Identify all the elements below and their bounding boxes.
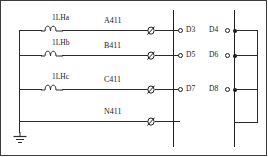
row-n-wire (19, 121, 151, 122)
row-b-return-wire (234, 55, 258, 56)
row-a-wire-left (19, 30, 42, 31)
row-a-wire-right (62, 30, 151, 31)
ground-symbol (11, 132, 29, 144)
row-c-return-wire (234, 89, 258, 90)
phi-terminal-a[interactable] (146, 26, 155, 35)
conductor-a-label: A411 (104, 17, 121, 25)
left-vertical-bus (19, 30, 20, 133)
row-c-wire-to-strip (155, 89, 180, 90)
coil-a-label: 1LHa (52, 14, 69, 22)
terminal-d6-circle[interactable] (225, 53, 230, 58)
row-a-wire-to-strip (155, 30, 180, 31)
conductor-n-label: N411 (104, 108, 121, 116)
terminal-d7-label: D7 (186, 85, 195, 93)
coil-b-label: 1LHb (52, 39, 70, 47)
row-b-wire-right (62, 55, 151, 56)
schematic-diagram: 1LHa A411 D3 D4 1LHb B411 D5 D6 (0, 0, 268, 157)
row-c-wire-right (62, 89, 151, 90)
row-b-wire-to-strip (155, 55, 180, 56)
terminal-strip-left-bus (173, 10, 174, 147)
terminal-d6-label: D6 (209, 51, 218, 59)
terminal-d4-circle[interactable] (225, 28, 230, 33)
return-bottom-wire (234, 122, 258, 123)
row-b-wire-left (19, 55, 42, 56)
terminal-d5-circle[interactable] (178, 53, 183, 58)
row-n-wire-to-strip (155, 121, 180, 122)
terminal-strip-right-bus (234, 10, 235, 147)
terminal-d7-circle[interactable] (178, 87, 183, 92)
phi-terminal-b[interactable] (146, 51, 155, 60)
conductor-c-label: C411 (104, 76, 121, 84)
terminal-d5-label: D5 (186, 51, 195, 59)
terminal-d8-label: D8 (209, 85, 218, 93)
phi-terminal-c[interactable] (146, 85, 155, 94)
right-return-riser-a (257, 30, 258, 122)
row-c-wire-left (19, 89, 42, 90)
phi-terminal-n[interactable] (146, 117, 155, 126)
terminal-d4-label: D4 (209, 26, 218, 34)
row-a-return-wire (234, 30, 258, 31)
terminal-d3-circle[interactable] (178, 28, 183, 33)
coil-c-label: 1LHc (52, 73, 69, 81)
conductor-b-label: B411 (104, 42, 121, 50)
terminal-d3-label: D3 (186, 26, 195, 34)
terminal-d8-circle[interactable] (225, 87, 230, 92)
